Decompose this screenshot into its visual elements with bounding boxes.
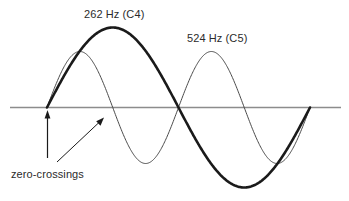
label-524hz-c5: 524 Hz (C5) xyxy=(187,32,247,44)
label-zero-crossings: zero-crossings xyxy=(11,168,84,180)
diagonal-arrow-annotation xyxy=(57,118,104,163)
waveform-figure: 262 Hz (C4) 524 Hz (C5) zero-crossings xyxy=(0,0,349,201)
arrowhead-up-icon xyxy=(45,110,51,119)
label-262hz-c4: 262 Hz (C4) xyxy=(84,8,144,20)
vertical-arrow-annotation xyxy=(45,110,51,158)
